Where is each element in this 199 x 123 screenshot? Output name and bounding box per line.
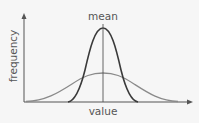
y-axis-arrow-icon xyxy=(22,13,27,19)
x-axis-arrow-icon xyxy=(187,100,193,105)
y-axis-label: frequency xyxy=(7,30,19,83)
x-axis-label: value xyxy=(89,105,118,117)
chart: mean value frequency xyxy=(0,0,199,123)
mean-label: mean xyxy=(88,10,118,22)
wide-curve xyxy=(26,73,178,102)
